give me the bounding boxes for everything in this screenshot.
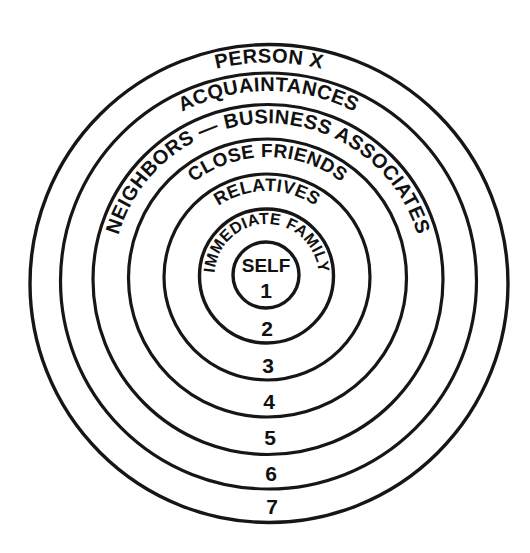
- arc-labels-group: IMMEDIATE FAMILYRELATIVESCLOSE FRIENDSNE…: [101, 44, 435, 273]
- ring-number-6: 6: [265, 462, 277, 485]
- ring-label-textpath-3: RELATIVES: [210, 175, 324, 210]
- social-circles-diagram: IMMEDIATE FAMILYRELATIVESCLOSE FRIENDSNE…: [0, 0, 530, 553]
- center-label-group: SELF: [242, 255, 291, 276]
- ring-label-textpath-6: ACQUAINTANCES: [174, 73, 362, 115]
- ring-number-5: 5: [264, 426, 276, 449]
- ring-label-textpath-7: PERSON X: [212, 44, 325, 72]
- ring-number-7: 7: [266, 495, 278, 518]
- self-label: SELF: [242, 255, 291, 276]
- ring-label-7: PERSON X: [212, 44, 325, 72]
- concentric-circles-figure: IMMEDIATE FAMILYRELATIVESCLOSE FRIENDSNE…: [0, 0, 530, 553]
- ring-number-4: 4: [263, 390, 275, 413]
- ring-circle-3: [164, 174, 370, 380]
- ring-label-3: RELATIVES: [210, 175, 324, 210]
- ring-number-2: 2: [261, 317, 273, 340]
- ring-numbers-group: 1234567: [260, 279, 278, 518]
- ring-number-1: 1: [260, 279, 272, 302]
- ring-label-6: ACQUAINTANCES: [174, 73, 362, 115]
- ring-number-3: 3: [262, 354, 274, 377]
